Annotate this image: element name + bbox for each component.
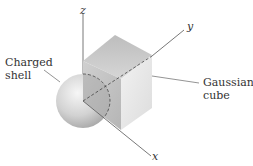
gaussian-cube-label-line2: cube [203,89,253,102]
y-axis [152,30,184,56]
gaussian-cube-label: Gaussian cube [203,76,253,102]
charged-shell-label-line2: shell [5,69,53,82]
gaussian-cube-label-line1: Gaussian [203,76,253,89]
x-axis-label: x [152,150,158,163]
y-axis-label: y [187,20,193,33]
charged-shell-label: Charged shell [5,56,53,82]
cube-leader-line [152,76,199,83]
charged-shell-label-line1: Charged [5,56,53,69]
gaussian-cube-diagram: z y x Charged shell Gaussian cube [0,0,253,166]
z-axis-label: z [80,4,86,17]
